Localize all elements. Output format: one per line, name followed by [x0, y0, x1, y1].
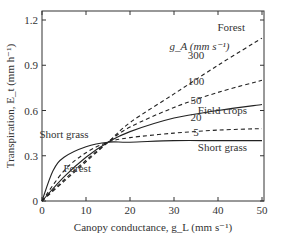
annotation-label: 5	[193, 126, 199, 138]
y-axis-title: Transpiration, E_t (mm h⁻¹)	[4, 43, 17, 168]
x-tick-label: 30	[169, 204, 181, 216]
chart: 0102030405000.30.60.91.2Canopy conductan…	[0, 0, 282, 238]
x-tick-label: 10	[81, 204, 93, 216]
x-axis-title: Canopy conductance, g_L (mm s⁻¹)	[74, 221, 233, 234]
y-tick-label: 0.6	[24, 105, 38, 117]
annotation-label: Field crops	[198, 104, 247, 116]
series-line-300	[42, 38, 262, 201]
annotation-label: 100	[188, 75, 205, 87]
y-tick-label: 0.9	[24, 59, 38, 71]
x-tick-label: 50	[257, 204, 269, 216]
x-tick-label: 40	[213, 204, 225, 216]
plot-area: 0102030405000.30.60.91.2Canopy conductan…	[4, 11, 268, 234]
x-tick-label: 0	[39, 204, 45, 216]
annotation-label: Forest	[63, 162, 91, 174]
annotation-label: Forest	[217, 21, 245, 33]
annotation-label: Short grass	[198, 141, 247, 153]
y-tick-label: 0.3	[24, 150, 38, 162]
annotation-label: Short grass	[39, 128, 88, 140]
y-tick-label: 0	[33, 195, 39, 207]
x-tick-label: 20	[125, 204, 137, 216]
y-tick-label: 1.2	[24, 14, 38, 26]
annotation-label: 300	[188, 49, 205, 61]
